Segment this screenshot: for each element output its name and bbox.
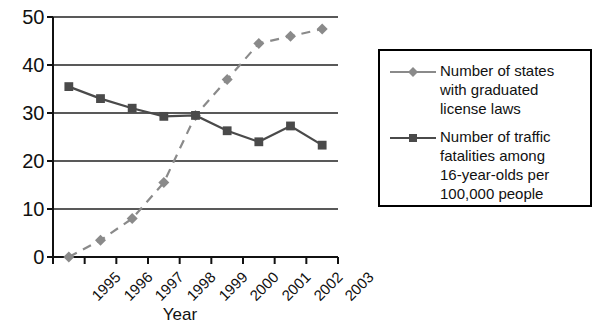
y-axis-tick-label: 10: [0, 199, 44, 219]
y-axis-tick-label: 50: [0, 7, 44, 27]
square-marker-icon: [388, 129, 438, 147]
legend-label-states: Number of states with graduated license …: [438, 61, 554, 118]
y-axis-tick-label: 20: [0, 151, 44, 171]
y-axis-tick-label: 40: [0, 55, 44, 75]
chart-page: 01020304050 1995199619971998199920002001…: [0, 0, 599, 332]
x-axis-ticks: [53, 257, 338, 264]
legend-label-fatalities: Number of traffic fatalities among 16-ye…: [438, 127, 551, 203]
y-axis-tick-label: 30: [0, 103, 44, 123]
x-axis-title: Year: [0, 305, 360, 325]
diamond-marker-icon: [388, 63, 438, 81]
line-chart: 01020304050 1995199619971998199920002001…: [0, 0, 360, 332]
gridlines: [53, 17, 338, 257]
axis-lines: [53, 17, 338, 257]
data-series-layer: [63, 24, 327, 263]
chart-legend: Number of states with graduated license …: [378, 49, 592, 207]
y-axis-tick-label: 0: [0, 247, 44, 267]
legend-item-states: Number of states with graduated license …: [388, 61, 554, 118]
legend-item-fatalities: Number of traffic fatalities among 16-ye…: [388, 127, 551, 203]
